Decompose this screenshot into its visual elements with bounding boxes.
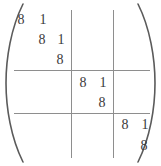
matrix-entry-r2c2: 8 <box>35 33 49 47</box>
partition-rule-vertical-2 <box>113 10 114 158</box>
matrix-entry-r2c3: 1 <box>54 33 68 47</box>
partition-rule-horizontal-2 <box>14 113 150 114</box>
matrix-entry-r5c5: 8 <box>95 96 109 110</box>
partition-rule-horizontal-1 <box>14 70 150 71</box>
matrix-entry-r7c7: 8 <box>137 139 151 153</box>
matrix-entry-r1c1: 8 <box>14 13 28 27</box>
matrix-entry-r3c3: 8 <box>53 53 67 67</box>
matrix-entry-r4c5: 1 <box>96 76 110 90</box>
jordan-matrix-figure: 81818818818 <box>0 0 161 166</box>
matrix-entry-r6c7: 1 <box>138 118 152 132</box>
matrix-entry-r4c4: 8 <box>76 76 90 90</box>
matrix-entry-r6c6: 8 <box>118 118 132 132</box>
partition-rule-vertical-1 <box>71 10 72 158</box>
matrix-entry-r1c2: 1 <box>36 13 50 27</box>
